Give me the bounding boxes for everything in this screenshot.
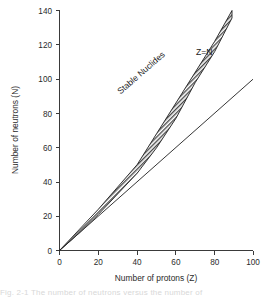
x-tick-labels: 0 20 40 60 80 100 [57, 258, 260, 267]
y-tick-label: 120 [38, 41, 52, 50]
x-axis-title: Number of protons (Z) [115, 273, 198, 283]
x-tick-label: 100 [246, 258, 260, 267]
y-tick-marks [56, 11, 60, 251]
y-axis-title: Number of neutrons (N) [10, 86, 20, 174]
x-tick-label: 40 [133, 258, 143, 267]
y-tick-label: 0 [47, 247, 52, 256]
x-tick-label: 20 [94, 258, 104, 267]
x-tick-marks [60, 251, 254, 255]
y-tick-label: 40 [43, 178, 53, 187]
y-tick-label: 20 [43, 212, 53, 221]
x-tick-label: 0 [57, 258, 62, 267]
figure-container: 140 120 100 80 60 40 20 0 0 20 40 60 80 … [0, 0, 271, 297]
z-equals-n-label: Z=N [196, 47, 212, 57]
plot-area [59, 10, 253, 250]
figure-caption-partial: Fig. 2-1 The number of neutrons versus t… [0, 288, 271, 297]
y-tick-label: 100 [38, 75, 52, 84]
y-tick-label: 140 [38, 7, 52, 16]
x-tick-label: 60 [171, 258, 181, 267]
y-tick-labels: 140 120 100 80 60 40 20 0 [38, 7, 52, 256]
nuclide-chart: 140 120 100 80 60 40 20 0 0 20 40 60 80 … [0, 0, 271, 297]
x-tick-label: 80 [210, 258, 220, 267]
y-tick-label: 80 [43, 110, 53, 119]
y-tick-label: 60 [43, 144, 53, 153]
